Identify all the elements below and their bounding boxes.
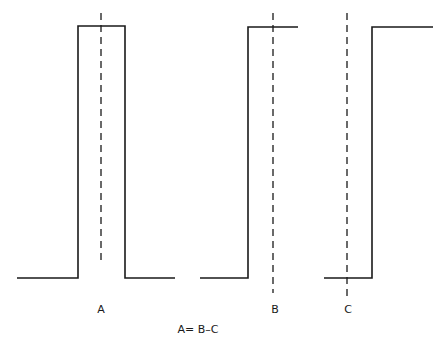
pulse-a: A xyxy=(17,13,175,316)
label-a: A xyxy=(97,303,105,316)
waveform-a xyxy=(17,26,175,278)
waveform-c xyxy=(324,27,433,278)
pulse-b: B xyxy=(200,13,298,316)
label-c: C xyxy=(344,303,352,316)
label-b: B xyxy=(271,303,279,316)
equation: A= B–C xyxy=(178,323,219,336)
pulse-diagram: A B C A= B–C xyxy=(0,0,448,340)
waveform-b xyxy=(200,27,298,278)
pulse-c: C xyxy=(324,13,433,316)
